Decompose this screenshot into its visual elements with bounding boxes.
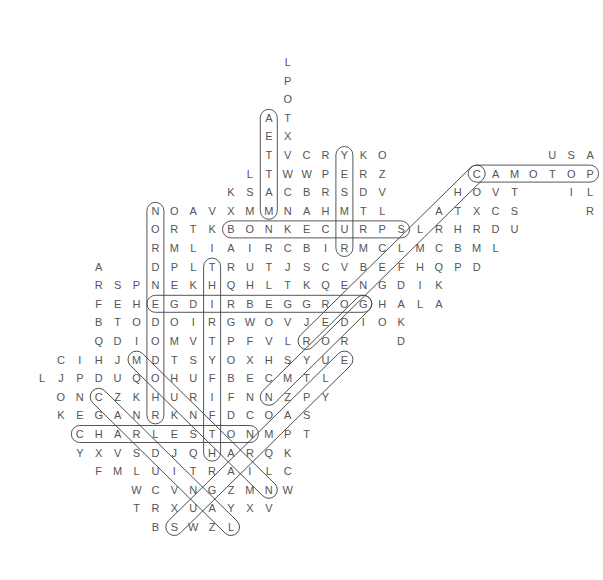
grid-letter[interactable]: Q <box>222 276 240 294</box>
grid-letter[interactable]: B <box>298 183 316 201</box>
grid-letter[interactable]: I <box>562 183 580 201</box>
grid-letter[interactable]: D <box>184 295 202 313</box>
grid-letter[interactable]: I <box>184 313 202 331</box>
grid-letter[interactable]: I <box>203 239 221 257</box>
grid-letter[interactable]: M <box>279 369 297 387</box>
grid-letter[interactable]: A <box>109 406 127 424</box>
grid-letter[interactable]: L <box>184 258 202 276</box>
grid-letter[interactable]: N <box>71 388 89 406</box>
grid-letter[interactable]: M <box>468 239 486 257</box>
grid-letter[interactable]: A <box>487 165 505 183</box>
grid-letter[interactable]: C <box>146 481 164 499</box>
grid-letter[interactable]: T <box>279 109 297 127</box>
grid-letter[interactable]: K <box>222 183 240 201</box>
grid-letter[interactable]: B <box>222 369 240 387</box>
grid-letter[interactable]: Y <box>71 444 89 462</box>
grid-letter[interactable]: V <box>260 332 278 350</box>
grid-letter[interactable]: A <box>90 258 108 276</box>
grid-letter[interactable]: O <box>260 406 278 424</box>
grid-letter[interactable]: M <box>165 332 183 350</box>
grid-letter[interactable]: G <box>279 295 297 313</box>
grid-letter[interactable]: O <box>222 425 240 443</box>
grid-letter[interactable]: I <box>411 276 429 294</box>
grid-letter[interactable]: R <box>203 313 221 331</box>
grid-letter[interactable]: O <box>146 220 164 238</box>
grid-letter[interactable]: W <box>279 165 297 183</box>
grid-letter[interactable]: E <box>317 313 335 331</box>
grid-letter[interactable]: D <box>222 406 240 424</box>
grid-letter[interactable]: X <box>222 202 240 220</box>
grid-letter[interactable]: F <box>222 388 240 406</box>
grid-letter[interactable]: D <box>468 258 486 276</box>
grid-letter[interactable]: N <box>184 481 202 499</box>
grid-letter[interactable]: D <box>146 351 164 369</box>
grid-letter[interactable]: O <box>52 388 70 406</box>
grid-letter[interactable]: M <box>241 202 259 220</box>
grid-letter[interactable]: H <box>165 369 183 387</box>
grid-letter[interactable]: O <box>317 332 335 350</box>
grid-letter[interactable]: Q <box>184 444 202 462</box>
grid-letter[interactable]: C <box>71 425 89 443</box>
grid-letter[interactable]: P <box>222 332 240 350</box>
grid-letter[interactable]: Z <box>222 481 240 499</box>
grid-letter[interactable]: K <box>128 388 146 406</box>
grid-letter[interactable]: J <box>279 258 297 276</box>
grid-letter[interactable]: L <box>411 220 429 238</box>
grid-letter[interactable]: F <box>90 295 108 313</box>
grid-letter[interactable]: T <box>260 165 278 183</box>
grid-letter[interactable]: R <box>298 332 316 350</box>
grid-letter[interactable]: D <box>109 332 127 350</box>
grid-letter[interactable]: S <box>562 146 580 164</box>
grid-letter[interactable]: V <box>184 332 202 350</box>
grid-letter[interactable]: K <box>203 220 221 238</box>
grid-letter[interactable]: L <box>260 276 278 294</box>
grid-letter[interactable]: O <box>165 313 183 331</box>
grid-letter[interactable]: L <box>146 425 164 443</box>
grid-letter[interactable]: S <box>335 183 353 201</box>
grid-letter[interactable]: L <box>33 369 51 387</box>
grid-letter[interactable]: J <box>52 369 70 387</box>
grid-letter[interactable]: V <box>165 481 183 499</box>
grid-letter[interactable]: N <box>260 481 278 499</box>
grid-letter[interactable]: G <box>222 313 240 331</box>
grid-letter[interactable]: H <box>146 388 164 406</box>
grid-letter[interactable]: O <box>373 313 391 331</box>
grid-letter[interactable]: I <box>165 462 183 480</box>
grid-letter[interactable]: P <box>317 165 335 183</box>
grid-letter[interactable]: H <box>90 425 108 443</box>
grid-letter[interactable]: J <box>298 313 316 331</box>
grid-letter[interactable]: P <box>279 425 297 443</box>
grid-letter[interactable]: T <box>128 499 146 517</box>
grid-letter[interactable]: E <box>165 276 183 294</box>
grid-letter[interactable]: R <box>335 239 353 257</box>
grid-letter[interactable]: C <box>430 239 448 257</box>
grid-letter[interactable]: U <box>241 258 259 276</box>
grid-letter[interactable]: H <box>260 351 278 369</box>
grid-letter[interactable]: K <box>430 276 448 294</box>
grid-letter[interactable]: T <box>260 146 278 164</box>
grid-letter[interactable]: E <box>146 295 164 313</box>
grid-letter[interactable]: R <box>146 499 164 517</box>
grid-letter[interactable]: O <box>260 313 278 331</box>
grid-letter[interactable]: A <box>298 202 316 220</box>
grid-letter[interactable]: B <box>222 220 240 238</box>
grid-letter[interactable]: U <box>335 220 353 238</box>
grid-letter[interactable]: H <box>203 276 221 294</box>
grid-letter[interactable]: D <box>392 276 410 294</box>
grid-letter[interactable]: R <box>146 239 164 257</box>
grid-letter[interactable]: T <box>203 332 221 350</box>
grid-letter[interactable]: L <box>411 295 429 313</box>
grid-letter[interactable]: V <box>279 146 297 164</box>
grid-letter[interactable]: U <box>146 462 164 480</box>
grid-letter[interactable]: R <box>260 239 278 257</box>
grid-letter[interactable]: M <box>165 239 183 257</box>
grid-letter[interactable]: M <box>128 351 146 369</box>
grid-letter[interactable]: T <box>279 276 297 294</box>
grid-letter[interactable]: R <box>468 220 486 238</box>
grid-letter[interactable]: E <box>241 369 259 387</box>
grid-letter[interactable]: R <box>317 295 335 313</box>
grid-letter[interactable]: A <box>222 239 240 257</box>
grid-letter[interactable]: L <box>128 462 146 480</box>
grid-letter[interactable]: A <box>392 295 410 313</box>
grid-letter[interactable]: S <box>298 258 316 276</box>
